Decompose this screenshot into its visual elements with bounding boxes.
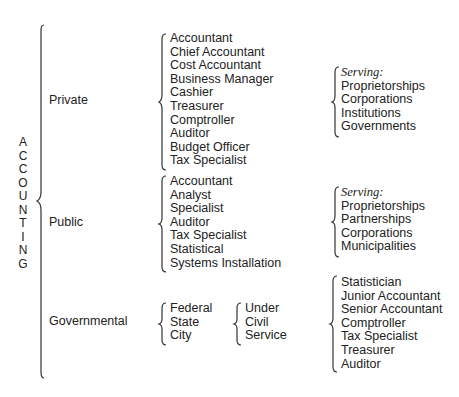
private-serving-list: Serving: Proprietorships Corporations In…: [341, 66, 425, 134]
list-item: Civil: [245, 316, 287, 330]
letter: O: [18, 177, 28, 191]
government-levels-brace-icon: [158, 302, 168, 346]
serving-label: Serving:: [341, 186, 425, 200]
list-item: Comptroller: [170, 114, 274, 128]
letter: C: [18, 163, 28, 177]
list-item: Business Manager: [170, 73, 274, 87]
serving-label: Serving:: [341, 66, 425, 80]
list-item: Systems Installation: [170, 257, 281, 271]
list-item: Tax Specialist: [170, 154, 274, 168]
private-roles-brace-icon: [158, 33, 168, 171]
letter: A: [18, 136, 28, 150]
civil-service-brace-icon: [233, 302, 243, 346]
public-serving-brace-icon: [331, 186, 341, 258]
list-item: Tax Specialist: [170, 229, 281, 243]
letter: N: [18, 244, 28, 258]
government-roles-list: Statistician Junior Accountant Senior Ac…: [341, 276, 442, 371]
list-item: Treasurer: [341, 344, 442, 358]
list-item: Auditor: [170, 127, 274, 141]
private-roles-list: Accountant Chief Accountant Cost Account…: [170, 32, 274, 168]
letter: U: [18, 190, 28, 204]
branch-public-label: Public: [49, 216, 83, 230]
list-item: State: [170, 316, 212, 330]
public-serving-list: Serving: Proprietorships Partnerships Co…: [341, 186, 425, 254]
list-item: Service: [245, 329, 287, 343]
letter: G: [18, 258, 28, 272]
letter: C: [18, 150, 28, 164]
list-item: Budget Officer: [170, 141, 274, 155]
list-item: Junior Accountant: [341, 290, 442, 304]
letter: T: [18, 217, 28, 231]
list-item: Corporations: [341, 227, 425, 241]
public-roles-list: Accountant Analyst Specialist Auditor Ta…: [170, 175, 281, 270]
government-levels-list: Federal State City: [170, 302, 212, 343]
public-roles-brace-icon: [158, 175, 168, 273]
list-item: Corporations: [341, 93, 425, 107]
branch-private-label: Private: [49, 94, 88, 108]
civil-service-list: Under Civil Service: [245, 302, 287, 343]
list-item: Auditor: [170, 216, 281, 230]
government-roles-brace-icon: [329, 275, 339, 373]
letter: N: [18, 204, 28, 218]
list-item: Accountant: [170, 32, 274, 46]
list-item: Cashier: [170, 86, 274, 100]
list-item: Chief Accountant: [170, 46, 274, 60]
list-item: Statistical: [170, 243, 281, 257]
list-item: City: [170, 329, 212, 343]
list-item: Cost Accountant: [170, 59, 274, 73]
list-item: Statistician: [341, 276, 442, 290]
letter: I: [18, 231, 28, 245]
list-item: Auditor: [341, 358, 442, 372]
branch-governmental-label: Governmental: [49, 315, 128, 329]
list-item: Accountant: [170, 175, 281, 189]
list-item: Senior Accountant: [341, 303, 442, 317]
private-serving-brace-icon: [331, 66, 341, 138]
list-item: Under: [245, 302, 287, 316]
list-item: Tax Specialist: [341, 330, 442, 344]
list-item: Institutions: [341, 107, 425, 121]
list-item: Comptroller: [341, 317, 442, 331]
list-item: Specialist: [170, 202, 281, 216]
accounting-vertical-title: A C C O U N T I N G: [18, 136, 28, 271]
list-item: Treasurer: [170, 100, 274, 114]
main-brace-icon: [36, 24, 48, 380]
list-item: Proprietorships: [341, 80, 425, 94]
list-item: Municipalities: [341, 240, 425, 254]
list-item: Analyst: [170, 189, 281, 203]
list-item: Partnerships: [341, 213, 425, 227]
list-item: Governments: [341, 120, 425, 134]
list-item: Proprietorships: [341, 200, 425, 214]
list-item: Federal: [170, 302, 212, 316]
